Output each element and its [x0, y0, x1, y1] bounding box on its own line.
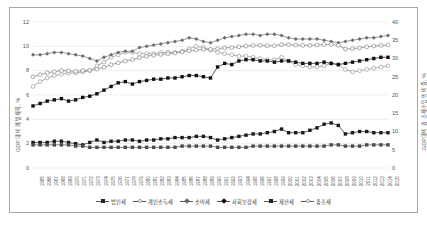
data-point: [138, 146, 141, 149]
data-point: [201, 39, 205, 43]
data-point: [223, 137, 226, 140]
data-point: [237, 54, 241, 58]
data-point: [351, 47, 355, 51]
data-point: [95, 92, 98, 95]
y-tick-left: 6: [13, 92, 29, 98]
data-point: [216, 146, 219, 149]
x-tick: 2001: [295, 176, 300, 186]
data-point: [88, 146, 91, 149]
legend-swatch: [96, 201, 109, 202]
legend-label: 총조세: [316, 198, 331, 205]
data-point: [308, 62, 311, 65]
x-tick: 1983: [168, 176, 173, 186]
data-point: [259, 59, 262, 62]
data-point: [209, 144, 212, 147]
data-point: [81, 96, 84, 99]
data-point: [386, 64, 390, 68]
data-point: [372, 131, 375, 134]
data-point: [159, 137, 162, 140]
data-point: [244, 54, 248, 58]
data-point: [95, 59, 99, 63]
data-point: [180, 75, 183, 78]
data-point: [102, 65, 106, 69]
data-point: [95, 67, 99, 71]
data-point: [379, 65, 383, 69]
data-point: [102, 146, 105, 149]
data-point: [259, 144, 262, 147]
legend-item[interactable]: 재산세: [264, 198, 294, 205]
legend-label: 법인세: [111, 198, 126, 205]
data-point: [287, 36, 291, 40]
data-point: [372, 36, 376, 40]
x-tick: 2014: [388, 176, 393, 186]
x-tick: 1989: [210, 176, 215, 186]
data-point: [272, 32, 276, 36]
data-point: [315, 37, 319, 41]
data-point: [52, 50, 56, 54]
data-point: [195, 144, 198, 147]
data-point: [102, 141, 105, 144]
data-point: [67, 69, 71, 73]
data-point: [45, 76, 49, 80]
data-point: [358, 59, 361, 62]
x-tick: 2013: [381, 176, 386, 186]
data-point: [38, 80, 42, 84]
data-point: [109, 63, 113, 67]
data-point: [159, 53, 163, 57]
x-tick: 1974: [104, 176, 109, 186]
data-point: [294, 131, 297, 134]
data-point: [67, 143, 70, 146]
x-tick: 1986: [189, 176, 194, 186]
legend-item[interactable]: 법인세: [96, 198, 126, 205]
legend-marker-icon: [101, 199, 105, 203]
y-tick-right: 5: [392, 147, 408, 153]
legend-marker-icon: [269, 199, 273, 203]
y-tick-left: 0: [13, 165, 29, 171]
data-point: [315, 126, 318, 129]
plot-area: [0, 0, 427, 227]
x-tick: 2005: [324, 176, 329, 186]
legend-label: 재산세: [279, 198, 294, 205]
data-point: [251, 132, 254, 135]
data-point: [280, 43, 284, 47]
data-point: [145, 44, 149, 48]
data-point: [322, 64, 326, 68]
chart-figure: GDP 대비 개별세목, % GDP대비 총 조세수입의 비중, % 법인세개인…: [0, 0, 427, 227]
data-point: [273, 44, 277, 48]
data-point: [95, 138, 98, 141]
x-tick: 1996: [260, 176, 265, 186]
legend-item[interactable]: 사회보장세: [217, 198, 257, 205]
data-point: [131, 82, 134, 85]
data-point: [173, 136, 176, 139]
data-point: [351, 131, 354, 134]
legend-item[interactable]: 총조세: [301, 198, 331, 205]
data-point: [386, 131, 389, 134]
y-tick-right: 35: [392, 37, 408, 43]
legend-swatch: [133, 201, 146, 202]
data-point: [138, 140, 141, 143]
legend-marker-icon: [306, 199, 310, 203]
legend-item[interactable]: 소비세: [180, 198, 210, 205]
data-point: [244, 133, 247, 136]
data-point: [315, 65, 319, 69]
data-point: [188, 136, 191, 139]
data-point: [251, 144, 254, 147]
legend-item[interactable]: 개인소득세: [133, 198, 173, 205]
data-point: [337, 143, 340, 146]
data-point: [60, 97, 63, 100]
data-point: [74, 144, 77, 147]
data-point: [209, 47, 213, 51]
data-point: [287, 131, 290, 134]
data-point: [173, 39, 177, 43]
data-point: [102, 60, 106, 64]
x-tick: 2003: [310, 176, 315, 186]
x-tick: 1992: [231, 176, 236, 186]
data-point: [116, 61, 120, 65]
data-point: [166, 41, 170, 45]
x-tick: 1977: [125, 176, 130, 186]
data-point: [45, 52, 49, 56]
series-line: [33, 123, 388, 145]
data-point: [315, 62, 318, 65]
data-point: [322, 60, 325, 63]
x-tick: 1981: [153, 176, 158, 186]
